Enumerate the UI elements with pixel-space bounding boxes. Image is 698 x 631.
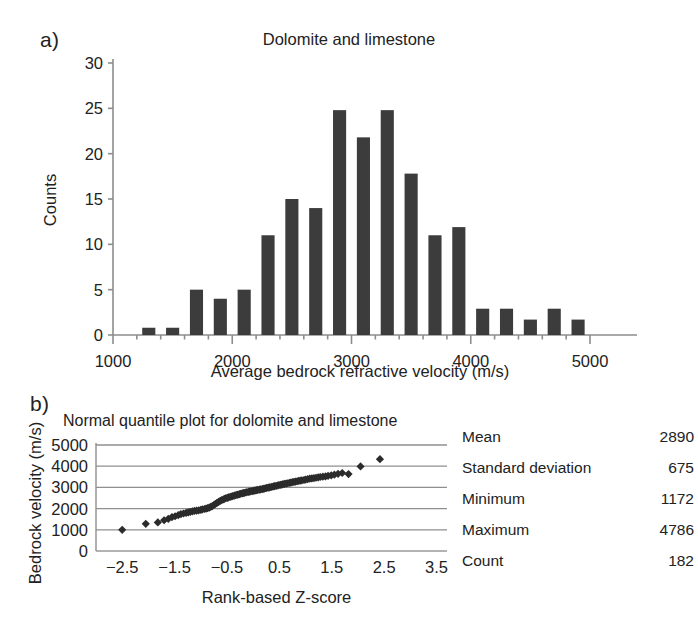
hist-x-tick-label: 5000 (572, 352, 609, 370)
qq-data-point (142, 520, 150, 528)
qq-x-tick-label: −0.5 (211, 558, 244, 576)
hist-x-tick-label: 1000 (95, 352, 132, 370)
qq-x-tick-label: 1.5 (320, 558, 343, 576)
histogram-bar (309, 208, 322, 335)
qq-x-tick-label: −1.5 (158, 558, 191, 576)
stat-value: 182 (668, 552, 694, 570)
histogram-bar (476, 309, 489, 335)
stat-label: Count (462, 552, 503, 570)
qq-x-tick-label: 0.5 (268, 558, 291, 576)
histogram-bar (405, 174, 418, 335)
qq-y-tick-label: 4000 (51, 457, 88, 475)
qq-data-point (154, 518, 162, 526)
stat-value: 675 (668, 459, 694, 477)
stat-row: Count182 (462, 552, 694, 570)
summary-statistics-table: Mean2890Standard deviation675Minimum1172… (462, 428, 694, 583)
stat-row: Mean2890 (462, 428, 694, 446)
qq-y-tick-label: 1000 (51, 521, 88, 539)
histogram-bar (333, 110, 346, 335)
hist-y-tick-label: 25 (85, 99, 103, 117)
qq-x-tick-label: 3.5 (425, 558, 448, 576)
hist-y-tick-label: 0 (94, 326, 103, 344)
qq-y-tick-label: 5000 (51, 436, 88, 454)
hist-y-tick-label: 20 (85, 145, 103, 163)
histogram-bar (357, 137, 370, 335)
histogram-bar (214, 299, 227, 335)
histogram-bar (500, 309, 513, 335)
stat-label: Minimum (462, 490, 525, 508)
stat-value: 1172 (661, 490, 694, 508)
hist-y-axis-title: Counts (41, 174, 59, 226)
qq-data-point (356, 462, 364, 470)
histogram-bar (285, 199, 298, 335)
histogram-bar (166, 328, 179, 335)
hist-y-tick-label: 15 (85, 190, 103, 208)
qq-x-tick-label: 2.5 (373, 558, 396, 576)
histogram-bar (261, 235, 274, 335)
hist-y-tick-label: 5 (94, 281, 103, 299)
qq-y-tick-label: 2000 (51, 500, 88, 518)
stat-value: 4786 (660, 521, 694, 539)
histogram-bar (452, 227, 465, 335)
qq-y-tick-label: 0 (79, 542, 88, 560)
qq-data-point (376, 455, 384, 463)
qq-data-point (118, 526, 126, 534)
histogram-bar (238, 290, 251, 335)
histogram-bar (190, 290, 203, 335)
histogram-bar (548, 309, 561, 335)
histogram-bar (428, 235, 441, 335)
hist-x-axis-title: Average bedrock refractive velocity (m/s… (211, 362, 510, 380)
histogram-bar (524, 320, 537, 335)
qq-y-tick-label: 3000 (51, 478, 88, 496)
histogram-bar (381, 110, 394, 335)
stat-row: Minimum1172 (462, 490, 694, 508)
stat-row: Standard deviation675 (462, 459, 694, 477)
stat-label: Mean (462, 428, 501, 446)
qq-x-axis-title: Rank-based Z-score (202, 588, 351, 606)
qq-x-tick-label: −2.5 (106, 558, 139, 576)
histogram-svg: 05101520253010002000300040005000Average … (0, 0, 698, 388)
stat-label: Standard deviation (462, 459, 591, 477)
histogram-bar (572, 320, 585, 335)
stat-row: Maximum4786 (462, 521, 694, 539)
histogram-bar (142, 328, 155, 335)
qq-data-point (344, 470, 352, 478)
stat-label: Maximum (462, 521, 529, 539)
hist-y-tick-label: 30 (85, 54, 103, 72)
panel-a-histogram: a) Dolomite and limestone 05101520253010… (0, 0, 698, 388)
qq-y-axis-title: Bedrock velocity (m/s) (26, 422, 44, 584)
stat-value: 2890 (660, 428, 694, 446)
hist-y-tick-label: 10 (85, 235, 103, 253)
